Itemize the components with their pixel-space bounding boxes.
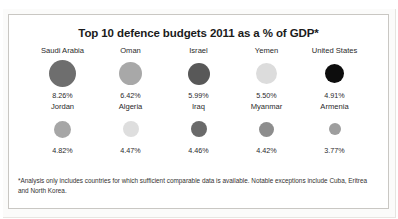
value-bubble (259, 122, 274, 137)
chart-panel: Top 10 defence budgets 2011 as a % of GD… (8, 14, 389, 209)
country-label: Saudi Arabia (41, 47, 84, 55)
bubble-row: Jordan 4.82% Algeria 4.47% Iraq 4.46% (9, 103, 388, 155)
country-value: 8.26% (52, 92, 72, 99)
value-bubble (54, 121, 71, 138)
country-value: 3.77% (324, 147, 344, 154)
country-label: Algeria (119, 103, 143, 111)
bubble-slot (325, 59, 344, 89)
country-value: 4.82% (52, 147, 72, 154)
country-label: Myanmar (251, 103, 283, 111)
country-value: 5.99% (188, 92, 208, 99)
chart-title: Top 10 defence budgets 2011 as a % of GD… (9, 27, 388, 39)
bubble-row: Saudi Arabia 8.26% Oman 6.42% Israel 5.9… (9, 47, 388, 99)
value-bubble (49, 60, 76, 87)
bubble-slot (49, 59, 76, 89)
country-value: 6.42% (120, 92, 140, 99)
bubble-slot (188, 59, 210, 89)
bubble-cell: Israel 5.99% (165, 47, 233, 99)
country-value: 4.91% (324, 92, 344, 99)
bubble-cell: United States 4.91% (301, 47, 369, 99)
chart-footnote: *Analysis only includes countries for wh… (18, 176, 376, 195)
value-bubble (188, 63, 210, 85)
bubble-slot (259, 114, 274, 144)
bubble-cell: Oman 6.42% (97, 47, 165, 99)
bubble-cell: Jordan 4.82% (29, 103, 97, 155)
country-label: Jordan (51, 103, 74, 111)
bubble-slot (123, 114, 139, 144)
country-value: 4.46% (188, 147, 208, 154)
bubble-slot (119, 59, 142, 89)
country-value: 5.50% (256, 92, 276, 99)
country-value: 4.42% (256, 147, 276, 154)
value-bubble (329, 123, 341, 135)
bubble-cell: Myanmar 4.42% (233, 103, 301, 155)
bubble-slot (256, 59, 277, 89)
bubble-slot (191, 114, 207, 144)
country-label: Iraq (192, 103, 205, 111)
bubble-slot (54, 114, 71, 144)
country-label: United States (312, 47, 358, 55)
country-label: Oman (120, 47, 141, 55)
bubble-cell: Algeria 4.47% (97, 103, 165, 155)
value-bubble (191, 121, 207, 137)
bubble-cell: Iraq 4.46% (165, 103, 233, 155)
bubble-cell: Yemen 5.50% (233, 47, 301, 99)
bubble-cell: Armenia 3.77% (301, 103, 369, 155)
country-label: Israel (189, 47, 208, 55)
bubble-cell: Saudi Arabia 8.26% (29, 47, 97, 99)
bubble-grid: Saudi Arabia 8.26% Oman 6.42% Israel 5.9… (9, 47, 388, 159)
bubble-slot (329, 114, 341, 144)
value-bubble (123, 121, 139, 137)
value-bubble (119, 62, 142, 85)
country-value: 4.47% (120, 147, 140, 154)
country-label: Yemen (255, 47, 278, 55)
value-bubble (325, 64, 344, 83)
value-bubble (256, 63, 277, 84)
country-label: Armenia (320, 103, 348, 111)
